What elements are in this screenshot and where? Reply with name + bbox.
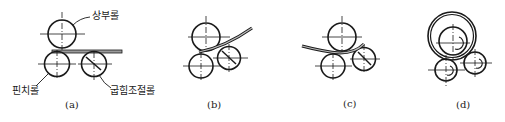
caption-d: (d) <box>456 100 470 110</box>
panel-c <box>302 16 380 81</box>
label-bending-adjust-roll: 굽힘조절롤 <box>110 86 155 96</box>
panel-d <box>428 12 492 86</box>
upper-roll-a <box>40 12 85 50</box>
pinch-roll-a <box>38 50 76 80</box>
bending-adjust-roll-b <box>213 44 248 73</box>
upper-roll-c <box>322 16 362 52</box>
tube-ring-d <box>428 12 476 60</box>
pinch-roll-b <box>183 52 220 80</box>
label-upper-roll: 상부롤 <box>92 11 119 21</box>
plate-b <box>199 28 252 52</box>
label-pinch-roll: 핀치롤 <box>12 86 39 96</box>
bending-adjust-roll-a <box>78 52 112 81</box>
panel-a <box>36 12 122 88</box>
pinch-roll-c <box>315 52 352 81</box>
caption-c: (c) <box>343 99 356 109</box>
upper-roll-b <box>188 16 230 52</box>
caption-b: (b) <box>207 100 221 110</box>
bending-adjust-roll-c <box>350 44 380 73</box>
caption-a: (a) <box>65 100 79 110</box>
leader-upper-roll <box>73 17 90 25</box>
panel-b <box>183 16 252 80</box>
